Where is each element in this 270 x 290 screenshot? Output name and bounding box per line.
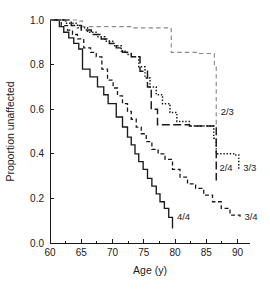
y-tick-label: 0.0 [30, 238, 44, 249]
x-axis-ticks [50, 239, 238, 243]
x-tick-label: 70 [107, 247, 119, 258]
axis-spines [50, 20, 250, 243]
series-label-3-4: 3/4 [244, 211, 257, 222]
survival-curve-3-4 [50, 20, 240, 218]
series-curves [50, 20, 240, 229]
x-tick-label: 85 [201, 247, 213, 258]
survival-curve-2-3 [50, 20, 216, 125]
x-tick-label: 75 [138, 247, 150, 258]
x-axis-tick-labels: 60657075808590 [44, 247, 243, 258]
y-axis-title: Proportion unaffected [4, 81, 16, 181]
x-tick-label: 65 [76, 247, 88, 258]
survival-curve-4-4 [50, 20, 173, 229]
x-tick-label: 90 [232, 247, 244, 258]
series-label-4-4: 4/4 [177, 211, 190, 222]
chart-canvas: 60657075808590 0.00.20.40.60.81.0 2/32/4… [0, 0, 270, 290]
y-tick-label: 1.0 [30, 15, 44, 26]
survival-curve-figure: 60657075808590 0.00.20.40.60.81.0 2/32/4… [0, 0, 270, 290]
axes [50, 20, 250, 243]
x-tick-label: 80 [169, 247, 181, 258]
y-tick-label: 0.2 [30, 193, 44, 204]
series-label-3-3: 3/3 [243, 162, 256, 173]
y-tick-label: 0.8 [30, 59, 44, 70]
x-tick-label: 60 [44, 247, 56, 258]
series-label-2-4: 2/4 [219, 162, 232, 173]
y-tick-label: 0.4 [30, 148, 44, 159]
series-inline-labels: 2/32/43/34/43/4 [177, 106, 258, 222]
y-tick-label: 0.6 [30, 104, 44, 115]
y-axis-ticks [50, 20, 54, 243]
y-axis-tick-labels: 0.00.20.40.60.81.0 [30, 15, 44, 249]
survival-curve-3-3 [50, 20, 239, 169]
x-axis-title: Age (y) [133, 264, 167, 276]
series-label-2-3: 2/3 [221, 106, 234, 117]
